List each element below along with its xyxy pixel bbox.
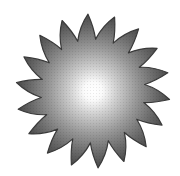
sun-shape	[17, 14, 170, 168]
sun-icon	[0, 0, 180, 176]
